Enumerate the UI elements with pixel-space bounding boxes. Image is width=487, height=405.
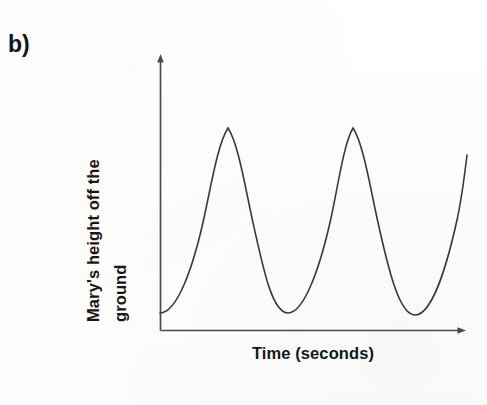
y-axis-arrowhead [157,54,164,63]
figure-canvas: b) Mary's height off the ground Time (se… [0,0,487,405]
y-axis [157,54,164,331]
x-axis-arrowhead [458,327,467,334]
height-curve [160,128,467,315]
x-axis [161,327,467,334]
plot-area [0,0,487,405]
